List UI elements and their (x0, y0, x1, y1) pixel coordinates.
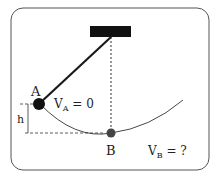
label-vb: VB = ? (147, 144, 187, 160)
ball-a (33, 98, 45, 110)
ceiling-block (90, 26, 131, 37)
pendulum-diagram: A B h VA = 0 VB = ? (0, 0, 219, 177)
label-b: B (106, 143, 116, 158)
label-h: h (17, 113, 24, 126)
label-va: VA = 0 (53, 97, 94, 113)
label-a: A (30, 84, 41, 99)
ball-b (107, 129, 116, 138)
